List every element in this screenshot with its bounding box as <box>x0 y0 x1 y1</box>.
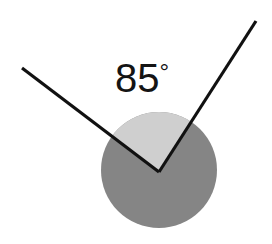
angle-diagram-canvas: 85° <box>0 0 272 244</box>
degree-symbol-icon: ° <box>159 58 169 85</box>
angle-diagram-figure: 85° <box>0 0 272 244</box>
angle-label-value: 85 <box>115 56 160 100</box>
